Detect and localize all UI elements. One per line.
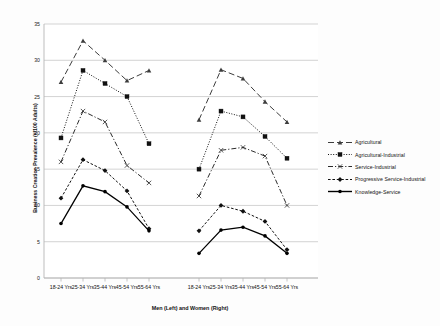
data-point-circle <box>147 229 151 233</box>
data-point-circle <box>241 225 245 229</box>
legend-item-progressive-service-industrial[interactable]: Progressive Service-Industrial <box>327 173 439 185</box>
legend-item-agricultural[interactable]: Agricultural <box>327 136 439 148</box>
x-tick-label: 18-24 Yrs <box>50 284 73 290</box>
legend-swatch-progressive-service-industrial <box>327 174 353 185</box>
data-point-square <box>241 115 245 119</box>
legend-label-knowledge-service: Knowledge-Service <box>355 189 401 195</box>
x-tick-label: 55-64 Yrs <box>138 284 161 290</box>
legend-swatch-agricultural <box>327 137 353 148</box>
data-point-square <box>125 95 129 99</box>
x-tick-label: 18-24 Yrs <box>188 284 211 290</box>
data-point-circle <box>219 228 223 232</box>
chart-figure: 0510152025303518-24 Yrs25-34 Yrs35-44 Yr… <box>0 0 440 326</box>
legend-label-progressive-service-industrial: Progressive Service-Industrial <box>355 176 425 182</box>
y-tick-label: 35 <box>34 21 40 27</box>
data-point-circle <box>285 252 289 256</box>
data-point-circle <box>103 190 107 194</box>
x-tick-label: 45-54 Yrs <box>254 284 277 290</box>
legend-item-knowledge-service[interactable]: Knowledge-Service <box>327 186 439 198</box>
legend-item-agricultural-industrial[interactable]: Agricultural-Industrial <box>327 148 439 160</box>
x-tick-label: 45-54 Yrs <box>116 284 139 290</box>
legend-swatch-agricultural-industrial <box>327 149 353 160</box>
data-point-square <box>197 167 201 171</box>
legend-swatch-knowledge-service <box>327 186 353 197</box>
data-point-circle <box>81 184 85 188</box>
data-point-square <box>147 142 151 146</box>
y-tick-label: 0 <box>37 275 40 281</box>
data-point-circle <box>263 234 267 238</box>
x-tick-label: 35-44 Yrs <box>94 284 117 290</box>
data-point-square <box>285 156 289 160</box>
data-point-square <box>103 82 107 86</box>
data-point-square <box>81 68 85 72</box>
y-axis-title: Business Creation Prevalence (#/100 Adul… <box>32 78 38 238</box>
legend-label-agricultural: Agricultural <box>355 139 382 145</box>
legend-label-service-industrial: Service-Industrial <box>355 164 396 170</box>
data-point-square <box>338 153 342 157</box>
x-tick-label: 55-64 Yrs <box>276 284 299 290</box>
data-point-square <box>59 136 63 140</box>
data-point-circle <box>197 252 201 256</box>
chart-legend: Agricultural Agricultural-Industrial Ser… <box>327 136 439 198</box>
data-point-square <box>263 134 267 138</box>
legend-swatch-service-industrial <box>327 161 353 172</box>
legend-item-service-industrial[interactable]: Service-Industrial <box>327 161 439 173</box>
data-point-circle <box>125 205 129 209</box>
y-tick-label: 30 <box>34 57 40 63</box>
y-tick-label: 5 <box>37 239 40 245</box>
legend-label-agricultural-industrial: Agricultural-Industrial <box>355 152 405 158</box>
x-axis-title: Men (Left) and Women (Right) <box>60 305 320 311</box>
data-point-circle <box>338 190 342 194</box>
data-point-square <box>219 109 223 113</box>
data-point-diamond <box>338 177 343 182</box>
data-point-circle <box>59 222 63 226</box>
x-tick-label: 25-34 Yrs <box>210 284 233 290</box>
x-tick-label: 35-44 Yrs <box>232 284 255 290</box>
x-tick-label: 25-34 Yrs <box>72 284 95 290</box>
